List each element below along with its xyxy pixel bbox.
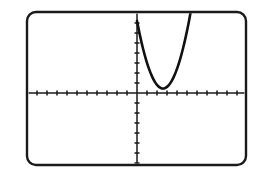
calculator-screen bbox=[0, 0, 264, 174]
graph-canvas bbox=[0, 0, 264, 174]
